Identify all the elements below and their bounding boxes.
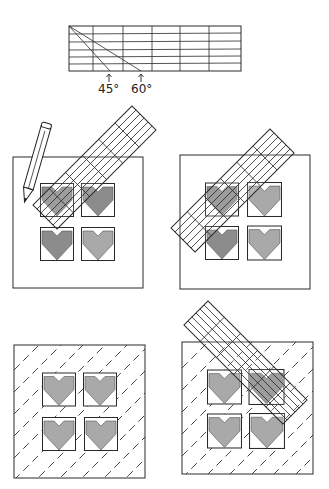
heart-block xyxy=(84,373,117,406)
panel-1 xyxy=(13,106,156,288)
heart-block xyxy=(43,373,76,406)
label-60-degree: 60° xyxy=(131,82,152,96)
heart-block xyxy=(41,228,74,261)
heart-block xyxy=(43,418,76,451)
angle-ruler: 45° 60° xyxy=(69,26,241,96)
panel-4 xyxy=(182,301,329,484)
heart-block xyxy=(82,228,115,261)
label-45-degree: 45° xyxy=(98,82,119,96)
heart-block xyxy=(208,414,242,448)
heart-block xyxy=(248,226,282,260)
panel-2 xyxy=(171,129,310,289)
quilt-marking-diagram: 45° 60° xyxy=(0,0,329,489)
arrow-60-icon xyxy=(139,74,144,82)
heart-block xyxy=(85,418,118,451)
arrow-45-icon xyxy=(107,74,112,82)
panel-3 xyxy=(14,340,160,486)
